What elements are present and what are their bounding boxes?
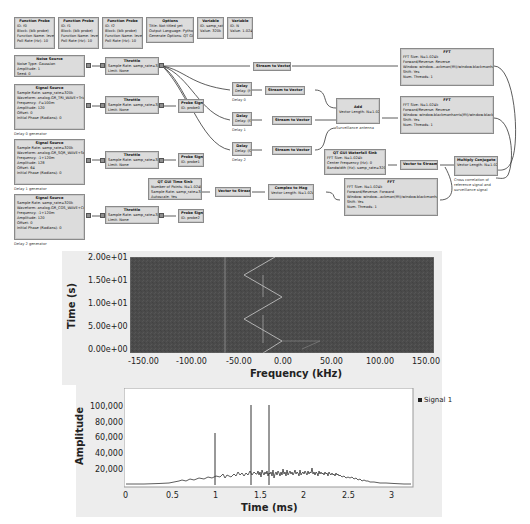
flowgraph-canvas[interactable]: Function Probe ID: f0 Block: (blk probe)… [0,0,530,250]
block-title: Stream to Vector [275,118,309,123]
x-tick: 150.00 [412,357,440,366]
y-tick: 40,000 [95,449,123,458]
x-tick: 100.00 [366,357,394,366]
x-tick: 3 [389,491,394,500]
complex-to-mag-block[interactable]: Complex to Mag Vector Length: N=1.024k [268,184,314,200]
time-plot[interactable] [124,388,414,488]
block-param: ID: probe1 [181,160,201,165]
block-param: Limit: None [108,108,156,113]
function-probe-block-2[interactable]: Function Probe ID: f2 Block: (blk probe)… [102,17,143,49]
delay1-label: Delay 1 [232,128,246,132]
multiply-conjugate-block[interactable]: Multiply Conjugate Vector Length: N=1.02… [454,156,498,176]
variable-block-n[interactable]: Variable ID: N Value: 1.024k [227,17,253,39]
qt-gui-time-sink-block[interactable]: QT GUI Time Sink Number of Points: N=1.0… [148,178,202,200]
qt-gui-waterfall-sink-block[interactable]: QT GUI Waterfall Sink FFT Size: N=1.024k… [324,149,386,175]
delay0-generator-label: Delay 0 generator [14,132,47,136]
delay2-generator-label: Delay 2 generator [14,242,47,246]
y-tick: 2.00e+01 [88,253,128,262]
probe-signal-block-2[interactable]: Probe Signal ID: probe2 [178,209,204,223]
block-param: ID: probe0 [181,106,201,111]
fft-block-1[interactable]: FFT FFT Size: N=1.024k Forward/Reverse: … [400,48,494,86]
stream-to-vector-block-2[interactable]: Stream to Vector [272,116,312,125]
fft-block-3[interactable]: FFT FFT Size: N=1.024k Forward/Reverse: … [344,178,438,216]
vector-to-stream-block[interactable]: Vector to Stream [400,160,438,170]
block-param: Generate Options: QT GUI [149,34,191,39]
y-tick: 1.50e+01 [88,276,128,285]
block-param: Seed: 0 [17,72,82,77]
output-port[interactable] [159,213,164,218]
output-port[interactable] [159,158,164,163]
waterfall-plot[interactable] [130,257,434,353]
y-tick: 5.00e+00 [88,322,128,331]
output-port[interactable] [86,103,91,108]
block-param: Value: 320k [200,29,221,34]
block-param: Bandwidth (Hz): samp_rate=320k [327,166,383,171]
block-param: Num. Threads: 1 [347,205,435,210]
function-probe-block-1[interactable]: Function Probe ID: f1 Block: (blk probe)… [58,17,99,49]
x-tick: 0.00 [274,357,292,366]
x-tick: 1.5 [254,491,267,500]
output-port[interactable] [86,213,91,218]
throttle-block-3[interactable]: Throttle Sample Rate: samp_rate=320k Lim… [105,206,159,224]
block-param: ID: probe2 [181,216,201,221]
noise-source-block[interactable]: Noise Source Noise Type: Gaussian Amplit… [14,55,85,77]
block-param: Delay: (f+) [235,89,249,94]
surveillance-antenna-label: Surveillance antenna [336,126,374,130]
delay2-label: Delay 2 [232,158,246,162]
block-title: Stream to Vector [275,148,309,153]
fft-block-2[interactable]: FFT FFT Size: N=1.024k Forward/Reverse: … [400,96,494,134]
waterfall-panel: Time (s) 2.00e+01 1.50e+01 1.00e+01 5.00… [62,251,442,385]
stream-to-vector-block-3[interactable]: Stream to Vector [272,146,312,155]
time-plot-panel: Amplitude 100,000 80,000 60,000 40,000 2… [76,385,442,517]
signal-source-block-2[interactable]: Signal Source Sample Rate: samp_rate=320… [14,194,85,240]
time-plot-x-axis-label: Time (ms) [241,502,297,513]
delay-block-1[interactable]: Delay Delay: (f1+) [232,112,252,126]
signal-source-block-0[interactable]: Signal Source Sample Rate: samp_rate=320… [14,84,85,130]
block-title: Vector to Stream [218,189,248,194]
block-param: Poll Rate (Hz): 10 [105,39,140,44]
legend-label: Signal 1 [424,396,452,404]
output-port[interactable] [159,103,164,108]
y-tick: 20,000 [95,465,123,474]
delay1-generator-label: Delay 1 generator [14,187,47,191]
block-param: Limit: None [108,163,156,168]
y-tick: 60,000 [95,433,123,442]
variable-block-samp-rate[interactable]: Variable ID: samp_rate Value: 320k [197,17,224,39]
block-param: Limit: None [108,69,156,74]
x-tick: 2.5 [342,491,355,500]
block-param: Initial Phase (Radians): 0 [17,171,82,176]
stream-to-vector-block-0[interactable]: Stream to Vector [253,62,291,71]
delay0-label: Delay 0 [232,98,246,102]
output-port[interactable] [86,63,91,68]
x-tick: 0 [123,491,128,500]
vector-to-stream-block-2[interactable]: Vector to Stream [215,187,251,197]
block-param: Poll Rate (Hz): 10 [17,39,52,44]
delay-block-2[interactable]: Delay Delay: (f2+) [232,142,252,156]
probe-signal-block-1[interactable]: Probe Signal ID: probe1 [178,153,204,167]
add-block[interactable]: Add Vector Length: N=1.024k [336,98,380,124]
x-tick: -50.00 [226,357,252,366]
block-param: Vector Length: N=1.024k [457,163,495,168]
block-param: Autoscale: Yes [151,195,199,200]
throttle-block-0[interactable]: Throttle Sample Rate: samp_rate=320k Lim… [105,57,159,75]
block-title: Stream to Vector [256,64,288,69]
legend-item-signal-1[interactable]: Signal 1 [418,396,452,404]
throttle-block-1[interactable]: Throttle Sample Rate: samp_rate=320k Lim… [105,96,159,114]
probe-signal-block-0[interactable]: Probe Signal ID: probe0 [178,99,204,113]
function-probe-block-0[interactable]: Function Probe ID: f0 Block: (blk probe)… [14,17,55,49]
block-param: Num. Threads: 1 [403,123,491,128]
block-param: Delay: (f2+) [235,149,249,154]
output-port[interactable] [159,63,164,68]
time-plot-y-axis-label: Amplitude [74,407,85,465]
output-port[interactable] [86,158,91,163]
options-block[interactable]: Options Title: Not titled yet Output Lan… [146,17,194,43]
x-tick: 0.5 [166,491,179,500]
stream-to-vector-block-1[interactable]: Stream to Vector [265,86,305,95]
y-tick: 100,000 [90,402,123,411]
x-tick: -100.00 [176,357,207,366]
delay-block-0[interactable]: Delay Delay: (f+) [232,82,252,96]
x-tick: 50.00 [320,357,343,366]
signal-source-block-1[interactable]: Signal Source Sample Rate: samp_rate=320… [14,139,85,185]
block-param: Delay: (f1+) [235,119,249,124]
throttle-block-2[interactable]: Throttle Sample Rate: samp_rate=320k Lim… [105,151,159,169]
